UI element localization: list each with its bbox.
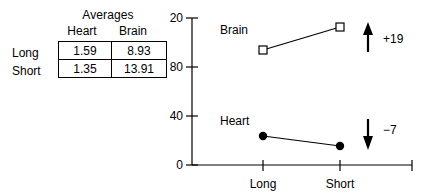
column-header-heart: Heart (58, 24, 106, 38)
heart-point-short (336, 142, 344, 150)
y-tick-label-120: 120 (170, 11, 183, 25)
brain-series-line (263, 27, 340, 50)
cell-long-heart: 1.59 (59, 42, 112, 60)
x-category-label-short: Short (326, 177, 355, 191)
heart-series-line (263, 136, 340, 146)
column-header-brain: Brain (108, 24, 158, 38)
arrow-up-head-icon (363, 22, 373, 35)
row-header-short: Short (12, 64, 56, 78)
chart-svg: 120 80 40 0 Long Short Brain Heart (170, 0, 428, 194)
x-category-label-long: Long (250, 177, 277, 191)
brain-delta-label: +19 (383, 32, 404, 46)
heart-series-label: Heart (220, 114, 250, 128)
averages-title: Averages (58, 8, 158, 22)
y-tick-label-0: 0 (176, 158, 183, 172)
averages-table-block: Averages Heart Brain Long Short 1.59 8.9… (0, 0, 170, 100)
table-row: 1.59 8.93 (59, 42, 167, 60)
cell-short-heart: 1.35 (59, 60, 112, 78)
heart-point-long (259, 132, 267, 140)
heart-delta-label: −7 (383, 123, 397, 137)
brain-delta-annotation: +19 (363, 22, 404, 52)
arrow-down-head-icon (363, 136, 373, 150)
table-row: 1.35 13.91 (59, 60, 167, 78)
line-chart-block: 120 80 40 0 Long Short Brain Heart (170, 0, 428, 194)
y-tick-label-80: 80 (170, 60, 183, 74)
averages-table: 1.59 8.93 1.35 13.91 (58, 41, 167, 78)
brain-point-short (336, 23, 344, 31)
row-header-long: Long (12, 46, 56, 60)
brain-series-label: Brain (220, 23, 248, 37)
cell-long-brain: 8.93 (112, 42, 167, 60)
cell-short-brain: 13.91 (112, 60, 167, 78)
y-tick-label-40: 40 (170, 109, 183, 123)
brain-point-long (259, 46, 267, 54)
heart-delta-annotation: −7 (363, 119, 397, 150)
figure-root: Averages Heart Brain Long Short 1.59 8.9… (0, 0, 428, 194)
